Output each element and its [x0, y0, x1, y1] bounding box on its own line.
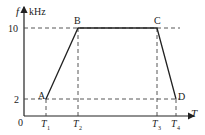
frequency-time-diagram: f kHz T 0 10 2 A B C D T1 T2 T3 T4	[0, 0, 205, 135]
y-tick-10: 10	[8, 23, 18, 34]
svg-text:2: 2	[79, 125, 82, 131]
origin-label: 0	[18, 117, 23, 128]
guide-lines	[24, 28, 180, 116]
y-axis-unit: kHz	[29, 6, 46, 17]
point-label-d: D	[178, 91, 185, 102]
svg-text:1: 1	[47, 125, 50, 131]
x-ticks: T1 T2 T3 T4	[41, 118, 180, 131]
svg-text:3: 3	[158, 125, 161, 131]
frequency-curve	[46, 28, 176, 99]
point-label-a: A	[38, 90, 46, 101]
svg-text:4: 4	[177, 125, 180, 131]
point-label-c: C	[154, 15, 161, 26]
point-label-b: B	[74, 15, 81, 26]
x-axis-label: T	[191, 107, 198, 119]
y-tick-2: 2	[14, 94, 19, 105]
y-axis-label: f	[16, 5, 21, 17]
